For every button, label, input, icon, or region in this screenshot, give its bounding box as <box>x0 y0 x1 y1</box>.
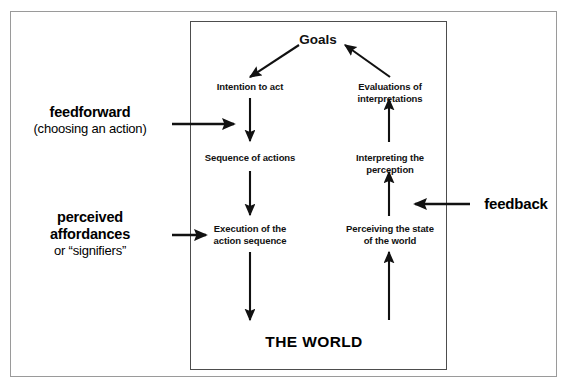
the-world-label: THE WORLD <box>248 333 380 351</box>
node-evaluations-of-interpretations: Evaluations of interpretations <box>342 81 438 105</box>
annotation-feedback-title: feedback <box>476 195 556 212</box>
node-execution-of-action-sequence: Execution of the action sequence <box>198 223 302 247</box>
the-world-box <box>190 21 447 370</box>
annotation-perceived-affordances: perceived affordances or “signifiers” <box>26 209 154 259</box>
annotation-feedback: feedback <box>476 195 556 212</box>
annotation-feedforward-title: feedforward <box>14 104 166 121</box>
annotation-feedforward-subtitle: (choosing an action) <box>14 121 166 137</box>
node-perceiving-state-of-world: Perceiving the state of the world <box>333 223 447 247</box>
node-intention-to-act: Intention to act <box>200 81 300 93</box>
node-sequence-of-actions: Sequence of actions <box>194 152 306 164</box>
node-goals: Goals <box>283 32 353 47</box>
annotation-perceived-affordances-title: perceived affordances <box>26 209 154 243</box>
annotation-feedforward: feedforward (choosing an action) <box>14 104 166 137</box>
diagram-canvas: Goals Intention to act Sequence of actio… <box>0 0 569 390</box>
annotation-perceived-affordances-subtitle: or “signifiers” <box>26 243 154 259</box>
node-interpreting-the-perception: Interpreting the perception <box>342 152 438 176</box>
